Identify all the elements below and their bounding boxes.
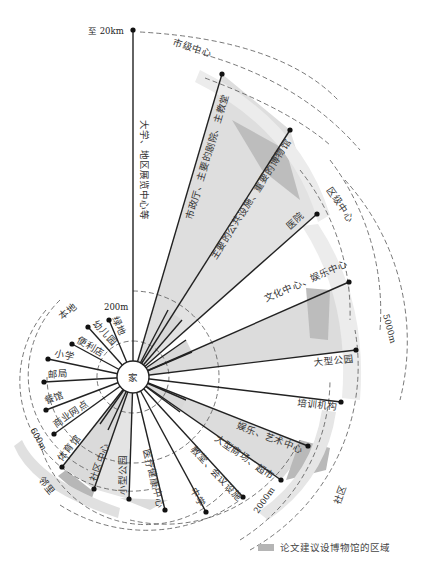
spoke-label: 培训机构 bbox=[297, 397, 338, 412]
spoke-label: 邮局 bbox=[48, 368, 69, 380]
neighborhood-radial-diagram: 家 大学、地区展览中心等 市政厅、主要的剧院、主教堂 主要的公共设施、重要的博物… bbox=[0, 0, 421, 574]
spoke-label: 小型公园 bbox=[117, 455, 128, 495]
top-distance-label: 至 20km bbox=[88, 26, 124, 36]
spoke-label: 便利店 bbox=[75, 334, 106, 359]
legend-swatch bbox=[258, 544, 274, 551]
zone-community: 社区 bbox=[332, 483, 349, 506]
distance-600m: 600m bbox=[28, 426, 49, 452]
distance-200m: 200m bbox=[104, 302, 128, 312]
legend-label: 论文建议设博物馆的区域 bbox=[280, 540, 390, 554]
spoke-label: 商业网点 bbox=[51, 398, 90, 430]
zone-local: 本地 bbox=[56, 300, 78, 321]
legend: 论文建议设博物馆的区域 bbox=[258, 540, 390, 554]
spoke-label: 中学 bbox=[188, 486, 207, 509]
home-label: 家 bbox=[128, 372, 138, 383]
spoke-label: 大学、地区展览中心等 bbox=[139, 120, 150, 220]
distance-5000m: 5000m bbox=[381, 313, 398, 344]
